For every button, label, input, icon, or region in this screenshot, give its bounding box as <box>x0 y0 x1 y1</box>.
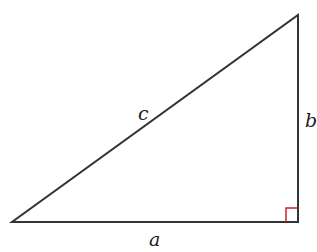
label-hypotenuse: c <box>138 102 149 124</box>
triangle <box>12 15 298 222</box>
label-horizontal-leg: a <box>149 228 160 250</box>
right-triangle-diagram: c b a <box>0 0 317 252</box>
label-vertical-leg: b <box>305 109 317 131</box>
right-angle-marker <box>286 208 298 222</box>
